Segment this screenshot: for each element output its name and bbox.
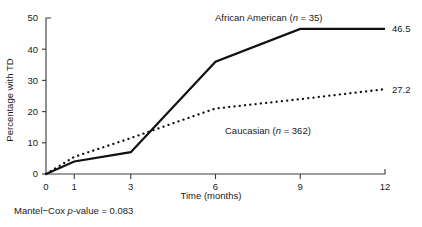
x-axis-line [46,169,385,174]
series-label-caucasian: Caucasian (n = 362) [225,125,311,136]
y-axis-line [46,18,51,174]
series-label-african-american: African American (n = 35) [215,12,322,23]
y-tick-label: 30 [27,75,38,86]
figure-container: 01020304050 0136912 Time (months) Percen… [0,0,422,227]
footnote-suffix: -value = 0.083 [73,205,133,216]
statistical-footnote: Mantel−Cox p-value = 0.083 [14,205,133,216]
y-tick-label: 20 [27,106,38,117]
y-tick-label: 50 [27,12,38,23]
y-tick-label: 0 [33,168,38,179]
x-tick-label: 3 [128,181,133,192]
line-chart: 01020304050 0136912 Time (months) Percen… [0,0,422,227]
footnote-prefix: Mantel−Cox [14,205,68,216]
endpoint-value-african-american: 46.5 [392,23,411,34]
x-tick-label: 0 [43,181,48,192]
y-tick-label: 10 [27,137,38,148]
y-axis-tick-labels: 01020304050 [27,12,38,179]
endpoint-value-caucasian: 27.2 [392,84,411,95]
x-axis-ticks [74,174,300,179]
series-line-caucasian [46,89,385,174]
series-line-african-american [46,29,385,174]
x-tick-label: 1 [72,181,77,192]
x-axis-title: Time (months) [181,190,242,201]
x-tick-label: 12 [380,181,391,192]
x-tick-label: 9 [298,181,303,192]
y-axis-title: Percentage with TD [4,58,15,141]
y-axis-ticks [42,49,46,174]
y-tick-label: 40 [27,44,38,55]
